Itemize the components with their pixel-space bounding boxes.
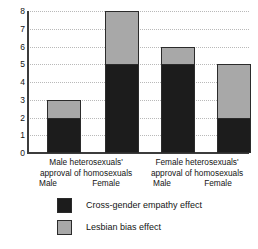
bar-label-3: Male <box>136 178 188 189</box>
group-label-1: Male heterosexuals' approval of homosexu… <box>28 157 144 178</box>
bar-label-4: Female <box>192 178 244 189</box>
y-tick-label-1: 1 <box>12 131 25 140</box>
x-axis-labels: Male heterosexuals' approval of homosexu… <box>0 155 258 195</box>
bar-4 <box>217 64 251 153</box>
y-axis-tick-labels: 876543210 <box>12 8 25 154</box>
legend-swatch-gray <box>57 220 72 235</box>
bar-label-2: Female <box>80 178 132 189</box>
bars-layer <box>28 11 249 153</box>
bar-3 <box>161 47 195 154</box>
group-label-1-line1: Male heterosexuals' <box>28 157 144 168</box>
chart-legend: Cross-gender empathy effect Lesbian bias… <box>57 194 257 238</box>
y-tick-label-5: 5 <box>12 60 25 69</box>
bar-1-segment-2 <box>47 100 81 118</box>
stacked-bar-chart: 876543210 Male heterosexuals' approval o… <box>0 0 258 249</box>
bar-3-segment-2 <box>161 47 195 65</box>
group-label-2: Female heterosexuals' approval of homose… <box>139 157 255 178</box>
y-tick-label-7: 7 <box>12 24 25 33</box>
bar-2-segment-2 <box>105 11 139 64</box>
y-tick-label-3: 3 <box>12 95 25 104</box>
legend-item-lesbian-bias-effect: Lesbian bias effect <box>57 216 257 238</box>
legend-label-1: Cross-gender empathy effect <box>86 200 202 211</box>
legend-swatch-dark <box>57 198 72 213</box>
y-tick-label-2: 2 <box>12 113 25 122</box>
group-label-2-line1: Female heterosexuals' <box>139 157 255 168</box>
bar-label-1: Male <box>22 178 74 189</box>
y-tick-label-8: 8 <box>12 7 25 16</box>
group-label-2-line2: approval of homosexuals <box>139 168 255 179</box>
legend-label-2: Lesbian bias effect <box>86 222 161 233</box>
y-tick-label-6: 6 <box>12 42 25 51</box>
bar-1 <box>47 100 81 153</box>
legend-item-cross-gender-empathy-effect: Cross-gender empathy effect <box>57 194 257 216</box>
bar-3-segment-1 <box>161 64 195 153</box>
bar-4-segment-1 <box>217 118 251 154</box>
bar-1-segment-1 <box>47 118 81 154</box>
bar-4-segment-2 <box>217 64 251 117</box>
plot-area: 876543210 <box>0 0 258 160</box>
bar-2 <box>105 11 139 153</box>
bar-2-segment-1 <box>105 64 139 153</box>
group-label-1-line2: approval of homosexuals <box>28 168 144 179</box>
y-tick-label-4: 4 <box>12 78 25 87</box>
